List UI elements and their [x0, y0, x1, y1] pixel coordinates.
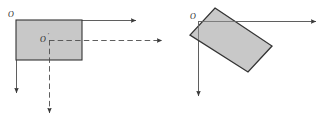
right-origin-label: O [190, 12, 196, 21]
right-body-rectangle [190, 8, 272, 72]
left-body-rectangle [16, 20, 82, 60]
left-center-label: O [40, 35, 46, 44]
left-panel: O O ′ [8, 10, 162, 113]
figure-canvas: O O ′ O [0, 0, 333, 128]
right-panel: O [190, 8, 316, 96]
left-origin-label: O [8, 10, 14, 19]
diagram-svg: O O ′ O [0, 0, 333, 128]
